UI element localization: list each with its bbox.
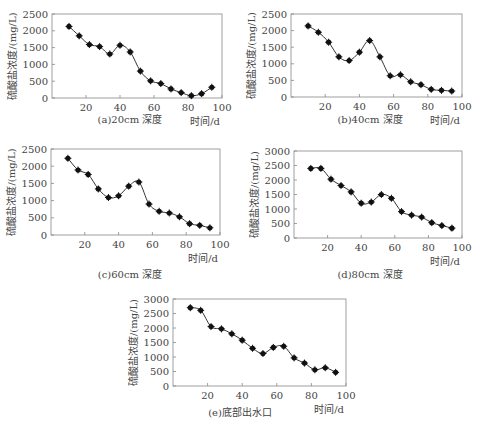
chart-e: 05001000150020002500300020406080100时间/d硫… <box>0 0 479 435</box>
data-point-marker <box>259 350 266 357</box>
y-tick-label: 0 <box>163 381 169 392</box>
y-tick-label: 1000 <box>144 352 169 363</box>
y-tick-label: 2500 <box>144 308 169 319</box>
y-tick-label: 3000 <box>144 294 169 305</box>
x-axis-label: 时间/d <box>314 403 344 415</box>
data-point-marker <box>301 360 308 367</box>
data-point-marker <box>270 344 277 351</box>
data-point-marker <box>249 345 256 352</box>
y-tick-label: 1500 <box>144 337 169 348</box>
x-tick-label: 20 <box>201 390 214 401</box>
y-tick-label: 500 <box>150 366 169 377</box>
data-point-marker <box>218 325 225 332</box>
x-tick-label: 80 <box>305 390 318 401</box>
data-point-marker <box>322 364 329 371</box>
data-point-marker <box>332 369 339 376</box>
y-tick-label: 2000 <box>144 323 169 334</box>
chart-caption-e: (e)底部出水口 <box>180 404 300 419</box>
data-point-marker <box>228 330 235 337</box>
x-tick-label: 60 <box>270 390 283 401</box>
series-line <box>190 308 335 373</box>
data-point-marker <box>311 366 318 373</box>
y-axis-label: 硫酸盐浓度/(mg/L) <box>127 299 139 386</box>
data-point-marker <box>187 304 194 311</box>
x-tick-label: 40 <box>236 390 249 401</box>
x-tick-label: 100 <box>336 390 355 401</box>
